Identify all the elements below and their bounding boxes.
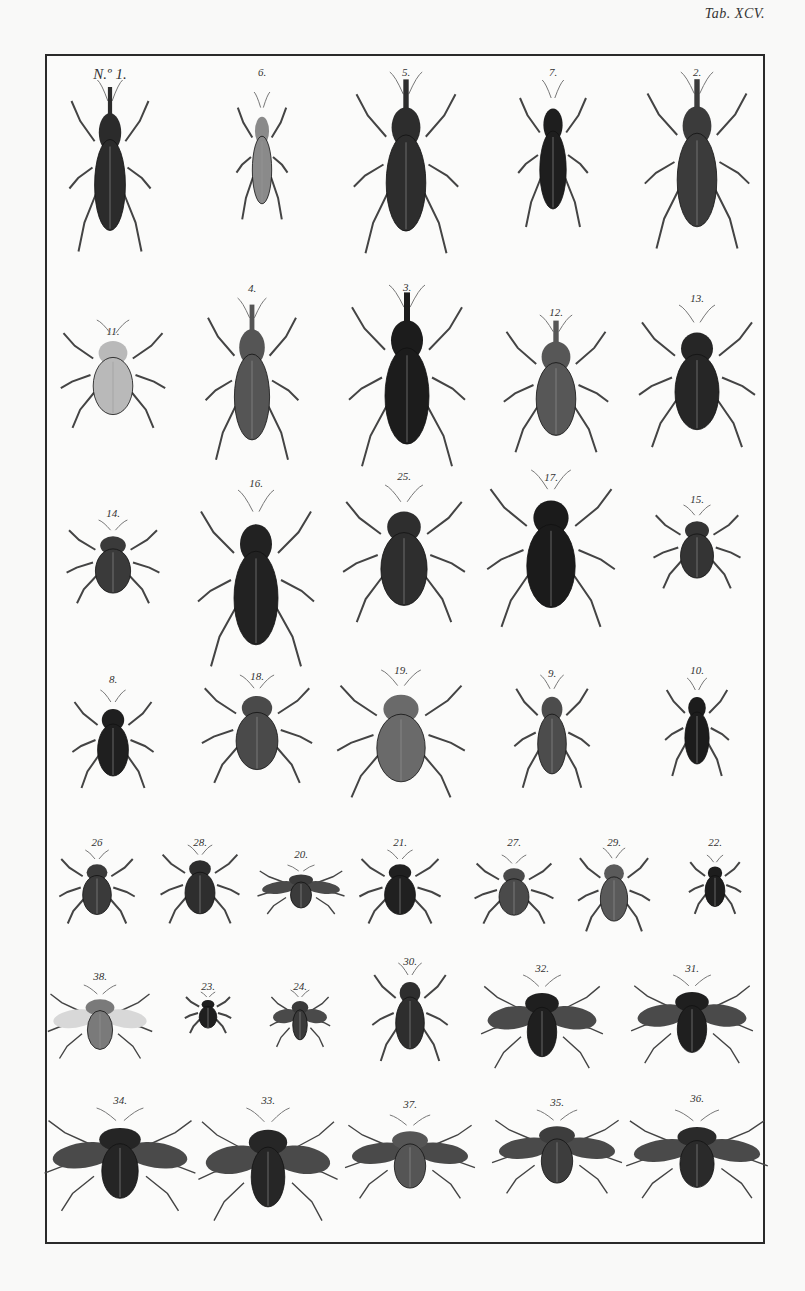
speckled-bug-illustration bbox=[480, 855, 548, 925]
figure-number: 22. bbox=[708, 836, 722, 848]
figure-number: 8. bbox=[109, 673, 117, 685]
ground-beetle-illustration bbox=[647, 305, 747, 450]
figure-number: 21. bbox=[393, 836, 407, 848]
figure-number: 10. bbox=[690, 664, 704, 676]
figure-number: 6. bbox=[258, 66, 266, 78]
winged-bug-illustration bbox=[490, 975, 595, 1070]
plate-title: Tab. XCV. bbox=[705, 6, 765, 22]
figure-number: 25. bbox=[397, 470, 411, 482]
ladybird-illustration bbox=[365, 850, 435, 925]
figure-number: 13. bbox=[690, 292, 704, 304]
long-snout-weevil-illustration bbox=[357, 285, 457, 470]
textured-weevil-illustration bbox=[511, 315, 601, 455]
figure-number: 31. bbox=[685, 962, 699, 974]
lantern-bug-illustration bbox=[501, 1110, 613, 1195]
figure-number: 4. bbox=[248, 282, 256, 294]
figure-number: 27. bbox=[507, 836, 521, 848]
fly-illustration bbox=[55, 985, 145, 1060]
elongate-beetle-illustration bbox=[520, 675, 585, 790]
slender-bug-illustration bbox=[166, 845, 234, 925]
weevil-illustration bbox=[652, 72, 742, 252]
slender-bug-illustration bbox=[583, 848, 645, 933]
figure-number: 32. bbox=[535, 962, 549, 974]
speckled-beetle-illustration bbox=[210, 675, 305, 785]
long-snout-weevil-illustration bbox=[361, 72, 451, 257]
figure-number: 34. bbox=[113, 1094, 127, 1106]
slender-bug-illustration bbox=[378, 963, 443, 1063]
click-beetle-illustration bbox=[78, 690, 148, 790]
figure-number: 35. bbox=[550, 1096, 564, 1108]
small-fly-illustration bbox=[274, 990, 326, 1048]
figure-number: 37. bbox=[403, 1098, 417, 1110]
spotted-beetle-illustration bbox=[68, 320, 158, 430]
spotted-bug-illustration bbox=[660, 505, 735, 590]
figure-number: 15. bbox=[690, 493, 704, 505]
figure-number: 7. bbox=[549, 66, 557, 78]
textured-beetle-illustration bbox=[346, 670, 456, 800]
small-bug-illustration bbox=[188, 992, 228, 1034]
ground-beetle-illustration bbox=[206, 490, 306, 670]
figure-number: 36. bbox=[690, 1092, 704, 1104]
shield-bug-illustration bbox=[352, 485, 457, 625]
winged-bug-illustration bbox=[640, 975, 745, 1065]
small-beetle-illustration bbox=[693, 855, 738, 915]
weevil-illustration bbox=[75, 80, 145, 255]
lantern-bug-illustration bbox=[354, 1115, 466, 1200]
elongate-beetle-illustration bbox=[523, 80, 583, 230]
lantern-bug-illustration bbox=[636, 1110, 758, 1200]
winged-bug-illustration bbox=[55, 1108, 185, 1213]
winged-bug-illustration bbox=[208, 1108, 328, 1223]
click-beetle-illustration bbox=[240, 92, 284, 222]
figure-number: 29. bbox=[607, 836, 621, 848]
weevil-illustration bbox=[212, 298, 292, 463]
figure-number: 20. bbox=[294, 848, 308, 860]
winged-beetle-illustration bbox=[264, 865, 339, 915]
figure-number: 33. bbox=[261, 1094, 275, 1106]
figure-number: 23. bbox=[201, 980, 215, 992]
spotted-bug-illustration bbox=[73, 520, 153, 605]
figure-number: 26 bbox=[92, 836, 103, 848]
figure-number: 14. bbox=[106, 507, 120, 519]
figure-number: 16. bbox=[249, 477, 263, 489]
ground-beetle-illustration bbox=[496, 470, 606, 630]
click-beetle-illustration bbox=[670, 678, 725, 778]
shield-bug-illustration bbox=[65, 850, 130, 925]
figure-number: 38. bbox=[93, 970, 107, 982]
